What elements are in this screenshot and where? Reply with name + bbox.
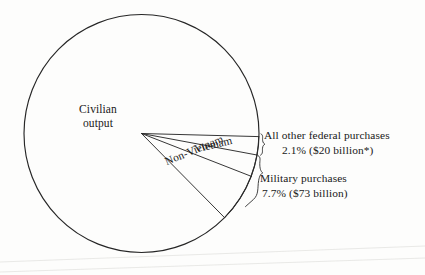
wedge-boundary-federal-top <box>142 134 259 137</box>
scan-artifact-line-2 <box>0 258 425 272</box>
callout-federal-purchases: All other federal purchases 2.1% ($20 bi… <box>264 128 390 157</box>
wedge-arc-nonvietnam <box>225 176 252 217</box>
civilian-output-line-1: Civilian <box>79 103 117 115</box>
callout-military-title: Military purchases <box>260 172 347 184</box>
scan-artifact-line <box>0 246 425 262</box>
callout-military-purchases: Military purchases 7.7% ($73 billion) <box>260 171 348 200</box>
figure-canvas: Civilian output Vietnam Non-Vietnam All … <box>0 0 425 275</box>
callout-military-value: 7.7% ($73 billion) <box>260 186 348 201</box>
slice-label-civilian-output: Civilian output <box>60 103 136 130</box>
callout-federal-title: All other federal purchases <box>264 129 390 141</box>
callout-federal-value: 2.1% ($20 billion*) <box>264 143 390 158</box>
civilian-output-line-2: output <box>83 117 113 129</box>
